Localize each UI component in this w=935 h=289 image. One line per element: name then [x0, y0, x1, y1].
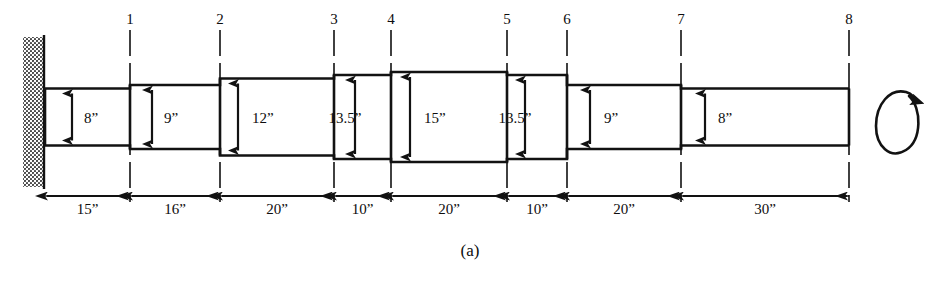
length-label-2: 16”: [164, 201, 186, 217]
length-label-6: 10”: [526, 201, 548, 217]
diameter-label-7: 9”: [604, 110, 618, 126]
station-number-1: 1: [126, 11, 134, 27]
diameter-label-2: 9”: [164, 110, 178, 126]
station-label-group: 12345678: [126, 11, 853, 27]
station-number-5: 5: [503, 11, 511, 27]
length-label-7: 20”: [613, 201, 635, 217]
rotation-arrow-path: [876, 91, 918, 153]
length-label-8: 30”: [754, 201, 776, 217]
diameter-label-4: 13.5”: [329, 110, 362, 126]
diameter-dimension-group: 8”9”12”13.5”15”13.5”9”8”: [72, 77, 732, 157]
diameter-label-8: 8”: [718, 110, 732, 126]
diameter-label-1: 8”: [84, 110, 98, 126]
diameter-label-3: 12”: [252, 110, 274, 126]
shaft-top-profile: [45, 72, 849, 89]
station-number-6: 6: [563, 11, 571, 27]
diameter-label-5: 15”: [424, 110, 446, 126]
length-label-1: 15”: [77, 201, 99, 217]
station-number-2: 2: [216, 11, 224, 27]
figure-caption: (a): [461, 241, 480, 260]
diameter-label-6: 13.5”: [499, 110, 532, 126]
length-label-4: 10”: [352, 201, 374, 217]
shaft-diagram-figure: 12345678 8”9”12”13.5”15”13.5”9”8” 15”16”…: [0, 0, 935, 289]
rotation-arrow-icon: [876, 91, 918, 153]
length-label-5: 20”: [438, 201, 460, 217]
length-dimension-group: 15”16”20”10”20”10”20”30”: [45, 196, 849, 217]
fixed-support-wall: [23, 35, 44, 189]
shaft-diagram-canvas: 12345678 8”9”12”13.5”15”13.5”9”8” 15”16”…: [0, 0, 935, 289]
wall-hatch-fill: [23, 37, 43, 187]
length-label-3: 20”: [266, 201, 288, 217]
shaft-bottom-profile: [45, 146, 849, 163]
station-number-8: 8: [845, 11, 853, 27]
station-number-7: 7: [677, 11, 685, 27]
station-number-4: 4: [387, 11, 395, 27]
station-number-3: 3: [330, 11, 338, 27]
